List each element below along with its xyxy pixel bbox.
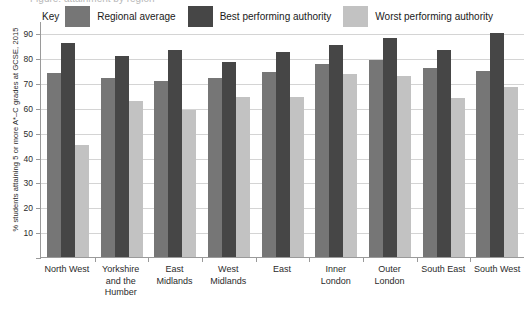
legend-swatch-best-performing-authority <box>188 6 213 27</box>
bar-group <box>202 22 256 257</box>
bar <box>329 45 343 257</box>
y-axis-tick-label: 30 <box>24 178 33 188</box>
y-axis-tick <box>36 258 41 259</box>
bar <box>343 74 357 257</box>
bar <box>490 33 504 257</box>
bar <box>168 50 182 257</box>
x-axis-category-label: East <box>255 264 309 299</box>
legend-item-worst-performing-authority: Worst performing authority <box>343 6 493 27</box>
y-axis-tick-label: 90 <box>24 29 33 39</box>
x-axis-tick <box>95 257 96 262</box>
bar <box>262 72 276 257</box>
x-axis-category-label: East Midlands <box>148 264 202 299</box>
legend-label-best-performing-authority: Best performing authority <box>220 11 332 22</box>
bar <box>504 87 518 257</box>
bar-group <box>470 22 524 257</box>
bar <box>369 60 383 257</box>
bar <box>101 78 115 257</box>
y-axis-tick-label: 40 <box>24 154 33 164</box>
y-axis-tick-label: 20 <box>24 203 33 213</box>
x-axis-labels: North WestYorkshire and the HumberEast M… <box>40 264 524 299</box>
bar <box>129 101 143 258</box>
legend-item-regional-average: Regional average <box>65 6 187 27</box>
y-axis-title: % students attaining 5 or more A*–C grad… <box>11 5 20 255</box>
x-axis-tick <box>202 257 203 262</box>
x-axis-category-label: South East <box>416 264 470 299</box>
x-axis-tick <box>309 257 310 262</box>
plot-area: 102030405060708090 <box>40 22 524 258</box>
bar-group <box>148 22 202 257</box>
legend-label-regional-average: Regional average <box>97 11 175 22</box>
legend-swatch-regional-average <box>65 6 90 27</box>
y-axis-tick-label: 50 <box>24 129 33 139</box>
x-axis-category-label: Yorkshire and the Humber <box>94 264 148 299</box>
x-axis-tick <box>148 257 149 262</box>
bar-group <box>41 22 95 257</box>
bar <box>315 64 329 257</box>
bar-group <box>256 22 310 257</box>
y-axis-tick-label: 80 <box>24 54 33 64</box>
x-axis-tick <box>256 257 257 262</box>
bar <box>276 52 290 257</box>
chart-legend: Key Regional average Best performing aut… <box>42 4 497 28</box>
legend-label-worst-performing-authority: Worst performing authority <box>375 11 493 22</box>
legend-swatch-worst-performing-authority <box>343 6 368 27</box>
gcse-attainment-bar-chart: Figure: attainment by region % students … <box>0 0 531 324</box>
bar-group <box>363 22 417 257</box>
bar-group <box>417 22 471 257</box>
bar <box>451 98 465 257</box>
bar <box>208 78 222 257</box>
x-axis-category-label: West Midlands <box>201 264 255 299</box>
x-axis-category-label: Outer London <box>363 264 417 299</box>
y-axis-tick-label: 70 <box>24 79 33 89</box>
legend-item-best-performing-authority: Best performing authority <box>188 6 344 27</box>
x-axis-category-label: North West <box>40 264 94 299</box>
bar <box>222 62 236 257</box>
bar <box>476 71 490 257</box>
bar <box>61 43 75 257</box>
bar <box>437 50 451 257</box>
y-axis-tick-label: 10 <box>24 228 33 238</box>
bar <box>236 97 250 257</box>
x-axis-tick <box>470 257 471 262</box>
bar-group <box>95 22 149 257</box>
bar <box>182 110 196 257</box>
bar <box>290 97 304 257</box>
x-axis-tick <box>417 257 418 262</box>
legend-key-label: Key <box>42 11 59 22</box>
bar <box>383 38 397 257</box>
bar <box>75 145 89 257</box>
bar <box>154 81 168 257</box>
x-axis-category-label: Inner London <box>309 264 363 299</box>
x-axis-tick <box>363 257 364 262</box>
bar <box>423 68 437 257</box>
bar <box>397 76 411 257</box>
x-axis-category-label: South West <box>470 264 524 299</box>
bar <box>47 73 61 257</box>
y-axis-tick-label: 60 <box>24 104 33 114</box>
bar <box>115 56 129 257</box>
bar-groups <box>41 22 524 257</box>
bar-group <box>309 22 363 257</box>
